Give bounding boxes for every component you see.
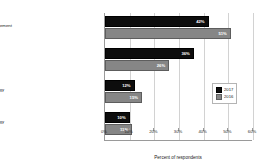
bar-group: 10%11% [105, 109, 252, 141]
chart-legend: 20172016 [212, 83, 237, 104]
bar-chart: 42%51%36%26%12%15%10%11% Percent of resp… [0, 0, 269, 168]
bar: 26% [105, 60, 169, 71]
category-label: Internally developed methodology [0, 87, 18, 93]
x-tick-label: 50% [223, 129, 231, 134]
x-tick-label: 30% [174, 129, 182, 134]
category-label: Methodology from a change-management pro… [0, 23, 18, 35]
legend-label: 2016 [224, 95, 233, 99]
x-axis-title: Percent of respondents [104, 155, 252, 160]
bar: 12% [105, 80, 135, 91]
bar-value-label: 15% [130, 95, 138, 99]
x-tick-label: 60% [248, 129, 256, 134]
bar-value-label: 12% [122, 83, 130, 87]
bar: 36% [105, 48, 194, 59]
legend-swatch [216, 94, 222, 100]
x-tick-label: 0% [101, 129, 107, 134]
bar-value-label: 36% [181, 51, 189, 55]
legend-label: 2017 [224, 88, 233, 92]
bar-value-label: 42% [196, 19, 204, 23]
category-label: Combination/hybrid mixture [0, 55, 18, 61]
category-label: Consultant-provided methodology [0, 119, 18, 125]
x-tick-label: 20% [149, 129, 157, 134]
legend-swatch [216, 87, 222, 93]
bar: 15% [105, 92, 142, 103]
bar: 42% [105, 16, 209, 27]
legend-item[interactable]: 2016 [216, 94, 233, 100]
bar-group: 42%51% [105, 13, 252, 45]
gridline [253, 13, 254, 140]
bar-group: 36%26% [105, 45, 252, 77]
bar: 51% [105, 28, 231, 39]
bar-value-label: 26% [157, 63, 165, 67]
bar-value-label: 51% [218, 31, 226, 35]
legend-item[interactable]: 2017 [216, 87, 233, 93]
x-tick-label: 40% [198, 129, 206, 134]
bar-value-label: 10% [117, 115, 125, 119]
x-tick-label: 10% [124, 129, 132, 134]
plot-area: 42%51%36%26%12%15%10%11% [104, 13, 252, 141]
bar: 10% [105, 112, 130, 123]
